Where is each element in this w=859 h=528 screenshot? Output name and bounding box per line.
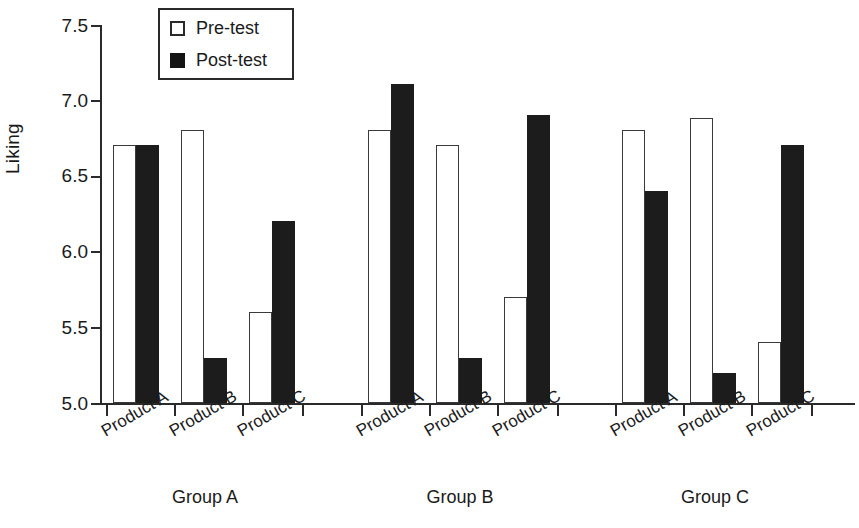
legend-item-pre-test: Pre-test (170, 16, 259, 40)
bar-pre-groupB-productC (504, 297, 527, 403)
legend: Pre-test Post-test (158, 8, 294, 80)
y-tick-label-5-5: 5.5 (36, 318, 88, 337)
y-axis-line (100, 25, 102, 404)
bar-pre-groupA-productA (113, 145, 136, 403)
open-square-icon (170, 21, 185, 36)
y-tick-mark (91, 251, 100, 253)
bar-pre-groupA-productB (181, 130, 204, 403)
x-cat-tick (361, 403, 363, 416)
bar-post-groupC-productC (781, 145, 804, 403)
y-axis-label: Liking (2, 24, 26, 174)
filled-square-icon (170, 53, 185, 68)
bar-pre-groupC-productB (690, 118, 713, 403)
bar-pre-groupA-productC (249, 312, 272, 403)
y-tick-label-5-0: 5.0 (36, 394, 88, 413)
legend-label-post-test: Post-test (196, 51, 267, 69)
y-tick-label-7-5: 7.5 (36, 16, 88, 35)
y-tick-label-7-0: 7.0 (36, 91, 88, 110)
bar-pre-groupB-productB (436, 145, 459, 403)
x-cat-tick (497, 403, 499, 416)
y-tick-mark (91, 327, 100, 329)
bar-chart: Liking 7.5 7.0 6.5 6.0 5.5 5.0 (0, 0, 859, 528)
x-cat-tick (429, 403, 431, 416)
y-tick-mark (91, 25, 100, 27)
y-tick-label-6-5: 6.5 (36, 166, 88, 185)
y-tick-mark (91, 403, 100, 405)
bar-post-groupB-productC (527, 115, 550, 403)
bar-pre-groupC-productC (758, 342, 781, 403)
bar-post-groupA-productC (272, 221, 295, 403)
y-tick-mark (91, 100, 100, 102)
bar-post-groupB-productA (391, 84, 414, 403)
x-cat-tick (242, 403, 244, 416)
bar-post-groupC-productA (645, 191, 668, 403)
bar-pre-groupB-productA (368, 130, 391, 403)
x-cat-tick (683, 403, 685, 416)
group-label-c: Group C (650, 487, 780, 508)
group-label-b: Group B (395, 487, 525, 508)
bar-post-groupA-productA (136, 145, 159, 403)
legend-item-post-test: Post-test (170, 48, 267, 72)
bar-pre-groupC-productA (622, 130, 645, 403)
legend-label-pre-test: Pre-test (196, 19, 259, 37)
group-label-a: Group A (140, 487, 270, 508)
x-cat-tick (106, 403, 108, 416)
x-cat-tick (751, 403, 753, 416)
x-cat-tick (615, 403, 617, 416)
y-tick-label-6-0: 6.0 (36, 242, 88, 261)
y-tick-mark (91, 176, 100, 178)
x-cat-tick (174, 403, 176, 416)
